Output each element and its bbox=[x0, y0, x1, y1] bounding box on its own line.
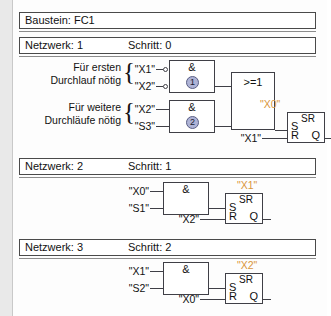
and-gate-2-input-2-operand: "S3" bbox=[129, 121, 155, 132]
and-gate-3-input-1-wire bbox=[150, 191, 163, 192]
and-gate-1[interactable]: & 1 bbox=[169, 60, 215, 93]
and-gate-3-input-1-operand: "X0" bbox=[123, 186, 149, 197]
sr-flipflop-3-reset-wire bbox=[200, 299, 225, 300]
and-gate-3-symbol: & bbox=[164, 183, 208, 195]
network-1-label: Netzwerk: 1 bbox=[25, 38, 83, 53]
and-gate-4-symbol: & bbox=[164, 263, 208, 275]
sr-flipflop-3-pin-q: Q bbox=[249, 291, 258, 302]
sr-flipflop-1-set-vertical-wire bbox=[287, 112, 288, 130]
sr-flipflop-2-pin-q: Q bbox=[249, 211, 258, 222]
sr-flipflop-1-reset-operand: "X1" bbox=[235, 133, 261, 144]
or-gate-1-symbol: >=1 bbox=[232, 76, 274, 88]
network-2-header-box: Netzwerk: 2 Schritt: 1 bbox=[19, 158, 316, 175]
sr-flipflop-1-pin-r: R bbox=[291, 130, 299, 141]
and-gate-3-input-2-operand: "S1" bbox=[123, 203, 149, 214]
block-header-box: Baustein: FC1 bbox=[19, 12, 316, 29]
and-gate-2-input-2-wire bbox=[156, 126, 169, 127]
sr-flipflop-1-output-wire bbox=[325, 138, 331, 139]
and-gate-4-input-2-wire bbox=[150, 288, 163, 289]
sr-flipflop-3-output-operand: "X2" bbox=[237, 260, 257, 271]
block-header-label: Baustein: FC1 bbox=[25, 13, 95, 28]
and-gate-2-input-1-operand: "X2" bbox=[129, 104, 155, 115]
sr-flipflop-2-reset-operand: "X2" bbox=[173, 214, 199, 225]
network-1-annotation-2: Für weitere Durchläufe nötig bbox=[17, 101, 121, 127]
network-1-step-label: Schritt: 0 bbox=[128, 38, 171, 53]
sr-flipflop-2-output-operand: "X1" bbox=[237, 180, 257, 191]
and-gate-4-output-wire bbox=[209, 288, 225, 289]
sr-flipflop-2[interactable]: SR S R Q bbox=[225, 193, 263, 224]
sr-flipflop-2-pin-r: R bbox=[229, 211, 237, 222]
annotation-line-2: Durchläufe nötig bbox=[17, 114, 121, 127]
network-2-step-label: Schritt: 1 bbox=[128, 159, 171, 174]
diagram-panel: Baustein: FC1 Netzwerk: 1 Schritt: 0 Für… bbox=[12, 0, 327, 316]
network-2-label: Netzwerk: 2 bbox=[25, 159, 83, 174]
and-gate-1-output-wire bbox=[215, 86, 231, 87]
block-header-underline bbox=[19, 31, 316, 32]
and-gate-1-input-1-negation-bubble bbox=[163, 67, 168, 72]
and-gate-4-input-2-operand: "S2" bbox=[123, 283, 149, 294]
sr-flipflop-2-reset-wire bbox=[200, 219, 225, 220]
network-1-annotation-1: Für ersten Durchlauf nötig bbox=[23, 61, 121, 87]
and-gate-1-input-1-wire bbox=[156, 69, 163, 70]
and-gate-1-symbol: & bbox=[170, 61, 214, 73]
sr-flipflop-1-output-operand: "X0" bbox=[260, 99, 280, 110]
sr-flipflop-1-pin-q: Q bbox=[311, 130, 320, 141]
and-gate-2-output-wire bbox=[215, 126, 231, 127]
annotation-line-1: Für ersten bbox=[23, 61, 121, 74]
and-gate-1-input-2-operand: "X2" bbox=[129, 81, 155, 92]
and-gate-2-number: 2 bbox=[186, 116, 199, 129]
network-3-step-label: Schritt: 2 bbox=[128, 240, 171, 255]
and-gate-4[interactable]: & bbox=[163, 262, 209, 295]
sr-flipflop-1-title: SR bbox=[301, 113, 315, 124]
sr-flipflop-3-pin-r: R bbox=[229, 291, 237, 302]
annotation-line-1: Für weitere bbox=[17, 101, 121, 114]
and-gate-3-output-wire bbox=[209, 208, 225, 209]
and-gate-4-input-1-operand: "X1" bbox=[123, 266, 149, 277]
and-gate-2[interactable]: & 2 bbox=[169, 100, 215, 133]
and-gate-4-input-1-wire bbox=[150, 271, 163, 272]
sr-flipflop-1-reset-wire bbox=[262, 138, 287, 139]
sr-flipflop-3-reset-operand: "X0" bbox=[173, 294, 199, 305]
network-3-label: Netzwerk: 3 bbox=[25, 240, 83, 255]
and-gate-1-input-2-wire bbox=[156, 86, 163, 87]
sr-flipflop-1[interactable]: SR S R Q bbox=[287, 112, 325, 143]
and-gate-2-input-1-wire bbox=[156, 109, 169, 110]
annotation-line-2: Durchlauf nötig bbox=[23, 74, 121, 87]
sr-flipflop-3-title: SR bbox=[239, 274, 253, 285]
network-1-underline bbox=[19, 56, 316, 57]
and-gate-1-input-2-negation-bubble bbox=[163, 84, 168, 89]
and-gate-1-input-1-operand: "X1" bbox=[129, 64, 155, 75]
and-gate-1-number: 1 bbox=[186, 76, 199, 89]
network-1-header-box: Netzwerk: 1 Schritt: 0 bbox=[19, 37, 316, 54]
and-gate-3[interactable]: & bbox=[163, 182, 209, 215]
network-3-header-box: Netzwerk: 3 Schritt: 2 bbox=[19, 239, 316, 256]
and-gate-3-input-2-wire bbox=[150, 208, 163, 209]
sr-flipflop-2-output-wire bbox=[263, 219, 271, 220]
or-gate-1-output-wire bbox=[275, 130, 287, 131]
sr-flipflop-3-output-wire bbox=[263, 299, 271, 300]
sr-flipflop-2-title: SR bbox=[239, 194, 253, 205]
network-2-underline bbox=[19, 177, 316, 178]
sr-flipflop-3[interactable]: SR S R Q bbox=[225, 273, 263, 304]
and-gate-2-symbol: & bbox=[170, 101, 214, 113]
network-3-underline bbox=[19, 258, 316, 259]
